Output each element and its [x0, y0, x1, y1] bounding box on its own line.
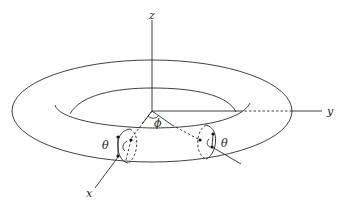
- x-axis-outer: [95, 157, 118, 188]
- phi-label: ϕ: [154, 117, 162, 130]
- y-axis-label: y: [326, 105, 334, 118]
- right-point-center: [198, 138, 201, 141]
- left-theta-arc: [123, 141, 127, 151]
- theta-right-label: θ: [221, 137, 228, 150]
- left-point-center: [129, 138, 132, 141]
- radius-line-hidden: [172, 125, 200, 140]
- z-axis-label: z: [148, 9, 155, 22]
- torus-hole-back-rim: [70, 88, 236, 114]
- theta-left-label: θ: [102, 139, 109, 152]
- x-axis-label: x: [86, 187, 93, 200]
- left-cross-section-inner: [126, 140, 131, 160]
- right-cross-section-back: [198, 125, 206, 159]
- right-theta-radius: [212, 134, 213, 147]
- left-cross-section-front: [118, 129, 130, 163]
- right-theta-arc: [207, 139, 210, 147]
- torus-diagram: z y x ϕ θ θ: [0, 0, 350, 219]
- torus-hole-front-rim: [55, 103, 250, 128]
